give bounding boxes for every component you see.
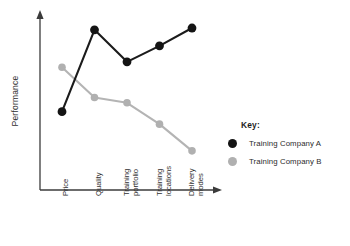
data-point — [155, 41, 164, 50]
chart-legend: Key: Training Company A Training Company… — [228, 120, 346, 175]
legend-marker-grey-circle-icon — [228, 157, 237, 166]
legend-item-training-company-b: Training Company B — [228, 157, 346, 166]
x-axis-tick-label: Deliverymodes — [188, 169, 205, 196]
legend-title: Key: — [241, 120, 346, 130]
series-line-training-company-b — [62, 67, 192, 151]
chart-figure: Performance PriceQualityTrainingportfoli… — [0, 0, 350, 246]
series-group — [58, 24, 197, 155]
legend-label-training-company-a: Training Company A — [249, 139, 321, 148]
x-axis-arrowhead — [213, 186, 222, 193]
data-point — [123, 99, 131, 107]
x-axis-tick-label: Quality — [95, 172, 104, 196]
data-point — [58, 107, 67, 116]
legend-marker-dark-circle-icon — [228, 139, 237, 148]
data-point — [91, 94, 99, 102]
data-point — [156, 120, 164, 128]
legend-item-training-company-a: Training Company A — [228, 139, 346, 148]
series-markers-training-company-b — [58, 63, 196, 154]
data-point — [188, 147, 196, 155]
legend-label-training-company-b: Training Company B — [249, 157, 322, 166]
x-axis-tick-label: Trainingportfolio — [123, 169, 140, 196]
data-point — [123, 57, 132, 66]
x-axis-tick-label: Traininglocations — [156, 166, 173, 196]
x-axis-tick-label: Price — [62, 179, 71, 196]
y-axis-arrowhead — [36, 10, 43, 19]
data-point — [188, 24, 197, 33]
y-axis-title: Performance — [10, 61, 20, 141]
data-point — [90, 25, 99, 34]
data-point — [58, 63, 66, 71]
